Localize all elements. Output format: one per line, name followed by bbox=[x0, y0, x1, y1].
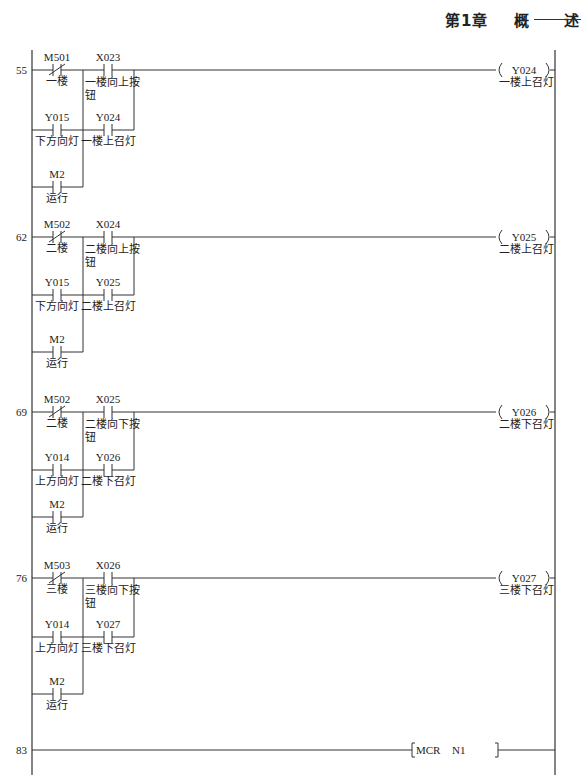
contact-address: X024 bbox=[96, 218, 121, 230]
contact-comment: 二楼向上按 bbox=[85, 242, 140, 256]
contact-comment: 三楼 bbox=[46, 582, 68, 596]
left-bracket-icon bbox=[412, 743, 415, 757]
contact-comment: 钮 bbox=[85, 255, 96, 269]
contact-address: M2 bbox=[49, 498, 64, 510]
contact-address: X023 bbox=[96, 51, 121, 63]
contact-comment: 上方向灯 bbox=[35, 474, 79, 488]
coil-right-paren-icon bbox=[546, 63, 549, 77]
coil-address: Y025 bbox=[512, 231, 537, 243]
contact-address: M501 bbox=[44, 51, 70, 63]
contact-x026: X026 bbox=[96, 559, 121, 584]
contact-comment: 运行 bbox=[46, 522, 68, 535]
rung-55: 55M501一楼X023一楼向上按钮Y015下方向灯Y024一楼上召灯M2运行Y… bbox=[16, 51, 555, 205]
contact-y014: Y014 bbox=[45, 618, 70, 643]
contact-comment: 上方向灯 bbox=[35, 641, 79, 655]
step-number: 62 bbox=[16, 231, 27, 243]
coil-comment: 二楼下召灯 bbox=[499, 417, 554, 431]
rung-83: 83MCRN1 bbox=[16, 743, 555, 757]
contact-y015: Y015 bbox=[45, 276, 70, 301]
step-number: 69 bbox=[16, 406, 28, 418]
contact-address: Y026 bbox=[96, 451, 121, 463]
coil-comment: 一楼上召灯 bbox=[499, 75, 554, 89]
contact-y014: Y014 bbox=[45, 451, 70, 476]
contact-comment: 钮 bbox=[85, 88, 96, 102]
coil-left-paren-icon bbox=[499, 230, 502, 244]
coil-y025: Y025二楼上召灯 bbox=[499, 230, 555, 256]
contact-comment: 下方向灯 bbox=[35, 299, 79, 313]
contact-address: Y015 bbox=[45, 276, 70, 288]
contact-address: X025 bbox=[96, 393, 121, 405]
contact-comment: 一楼上召灯 bbox=[81, 134, 136, 148]
contact-x023: X023 bbox=[96, 51, 121, 76]
contact-address: Y024 bbox=[96, 111, 121, 123]
contact-address: M502 bbox=[44, 393, 70, 405]
contact-comment: 运行 bbox=[46, 699, 68, 712]
step-number: 76 bbox=[16, 572, 28, 584]
contact-m502: M502 bbox=[44, 393, 70, 418]
contact-m2: M2 bbox=[49, 675, 64, 700]
contact-comment: 二楼上召灯 bbox=[81, 299, 136, 313]
contact-comment: 钮 bbox=[85, 596, 96, 610]
contact-m503: M503 bbox=[44, 559, 71, 584]
contact-x025: X025 bbox=[96, 393, 121, 418]
contact-comment: 下方向灯 bbox=[35, 134, 79, 148]
contact-address: Y015 bbox=[45, 111, 70, 123]
contact-comment: 三楼向下按 bbox=[85, 583, 140, 597]
coil-left-paren-icon bbox=[499, 571, 502, 585]
rungs-layer: 55M501一楼X023一楼向上按钮Y015下方向灯Y024一楼上召灯M2运行Y… bbox=[16, 51, 555, 757]
contact-address: M503 bbox=[44, 559, 71, 571]
rung-69: 69M502二楼X025二楼向下按钮Y014上方向灯Y026二楼下召灯M2运行Y… bbox=[16, 393, 555, 535]
contact-address: Y027 bbox=[96, 618, 121, 630]
right-bracket-icon bbox=[495, 743, 498, 757]
contact-y015: Y015 bbox=[45, 111, 70, 136]
contact-address: Y014 bbox=[45, 451, 70, 463]
contact-comment: 二楼 bbox=[46, 416, 68, 430]
coil-y024: Y024一楼上召灯 bbox=[499, 63, 555, 89]
step-number: 55 bbox=[16, 64, 28, 76]
coil-address: Y024 bbox=[512, 64, 537, 76]
instruction-name: MCR bbox=[416, 744, 441, 756]
coil-comment: 三楼下召灯 bbox=[499, 583, 554, 597]
rung-76: 76M503三楼X026三楼向下按钮Y014上方向灯Y027三楼下召灯M2运行Y… bbox=[16, 559, 555, 712]
contact-comment: 二楼 bbox=[46, 241, 68, 255]
contact-comment: 钮 bbox=[85, 430, 96, 444]
coil-address: Y026 bbox=[512, 406, 537, 418]
contact-y027: Y027 bbox=[96, 618, 121, 643]
coil-y027: Y027三楼下召灯 bbox=[499, 571, 555, 597]
contact-address: Y014 bbox=[45, 618, 70, 630]
contact-address: M2 bbox=[49, 168, 64, 180]
contact-m501: M501 bbox=[44, 51, 70, 76]
contact-comment: 一楼 bbox=[46, 74, 68, 88]
coil-right-paren-icon bbox=[546, 405, 549, 419]
coil-right-paren-icon bbox=[546, 230, 549, 244]
coil-left-paren-icon bbox=[499, 405, 502, 419]
contact-address: X026 bbox=[96, 559, 121, 571]
contact-y024: Y024 bbox=[96, 111, 121, 136]
contact-comment: 一楼向上按 bbox=[85, 75, 140, 89]
coil-address: Y027 bbox=[512, 572, 537, 584]
contact-address: M2 bbox=[49, 675, 64, 687]
contact-m2: M2 bbox=[49, 333, 64, 358]
contact-m2: M2 bbox=[49, 168, 64, 193]
contact-x024: X024 bbox=[96, 218, 121, 243]
rung-62: 62M502二楼X024二楼向上按钮Y015下方向灯Y025二楼上召灯M2运行Y… bbox=[16, 218, 555, 370]
coil-y026: Y026二楼下召灯 bbox=[499, 405, 555, 431]
contact-comment: 运行 bbox=[46, 357, 68, 370]
contact-m502: M502 bbox=[44, 218, 70, 243]
contact-y026: Y026 bbox=[96, 451, 121, 476]
contact-address: Y025 bbox=[96, 276, 121, 288]
mcr-instruction: MCRN1 bbox=[412, 743, 555, 757]
ladder-diagram: 55M501一楼X023一楼向上按钮Y015下方向灯Y024一楼上召灯M2运行Y… bbox=[0, 0, 581, 779]
contact-address: M2 bbox=[49, 333, 64, 345]
instruction-operand: N1 bbox=[452, 744, 465, 756]
coil-comment: 二楼上召灯 bbox=[499, 242, 554, 256]
contact-m2: M2 bbox=[49, 498, 64, 523]
step-number: 83 bbox=[16, 744, 28, 756]
contact-address: M502 bbox=[44, 218, 70, 230]
contact-comment: 二楼下召灯 bbox=[81, 474, 136, 488]
contact-comment: 三楼下召灯 bbox=[81, 641, 136, 655]
coil-left-paren-icon bbox=[499, 63, 502, 77]
contact-comment: 运行 bbox=[46, 192, 68, 205]
contact-y025: Y025 bbox=[96, 276, 121, 301]
coil-right-paren-icon bbox=[546, 571, 549, 585]
